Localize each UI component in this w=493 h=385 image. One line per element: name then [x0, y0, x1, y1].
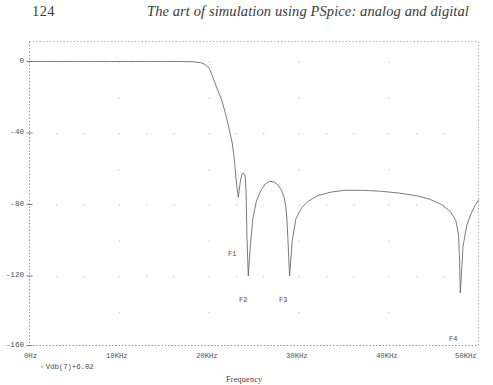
y-tick-label-minus40: -40 [2, 128, 24, 136]
x-tick-label-50khz: 50KHz [455, 352, 477, 360]
x-tick-label-20khz: 20KHz [196, 352, 218, 360]
x-tick-label-0hz: 0Hz [24, 352, 37, 360]
x-axis-title: Frequency [226, 375, 262, 384]
y-tick-label-minus80: -80 [2, 200, 24, 208]
marker-label-f3: F3 [279, 296, 288, 304]
page-number: 124 [32, 3, 55, 20]
plot-canvas [0, 26, 493, 385]
response-trace [30, 62, 479, 294]
legend-label: Vdb(7)+6.02 [46, 363, 94, 371]
marker-label-f4: F4 [449, 335, 458, 343]
x-tick-label-40khz: 40KHz [376, 352, 398, 360]
running-title: The art of simulation using PSpice: anal… [147, 3, 469, 20]
y-tick-label-minus120: -120 [0, 271, 24, 279]
plot-frame [30, 42, 479, 346]
legend-square-icon: ▫ [40, 364, 44, 371]
y-tick-label-minus160: -160 [0, 341, 24, 349]
grid-dots [56, 62, 444, 314]
x-tick-label-10khz: 10KHz [106, 352, 128, 360]
marker-label-f1: F1 [228, 250, 237, 258]
trace-vdb7 [30, 62, 479, 294]
page-header: 124 The art of simulation using PSpice: … [0, 0, 493, 26]
trace-legend[interactable]: ▫Vdb(7)+6.02 [40, 363, 94, 371]
x-tick-label-30khz: 30KHz [286, 352, 308, 360]
pspice-plot-figure: 0 -40 -80 -120 -160 0Hz 10KHz 20KHz 30KH… [0, 26, 493, 385]
y-tick-label-0: 0 [6, 57, 24, 65]
marker-label-f2: F2 [239, 296, 248, 304]
